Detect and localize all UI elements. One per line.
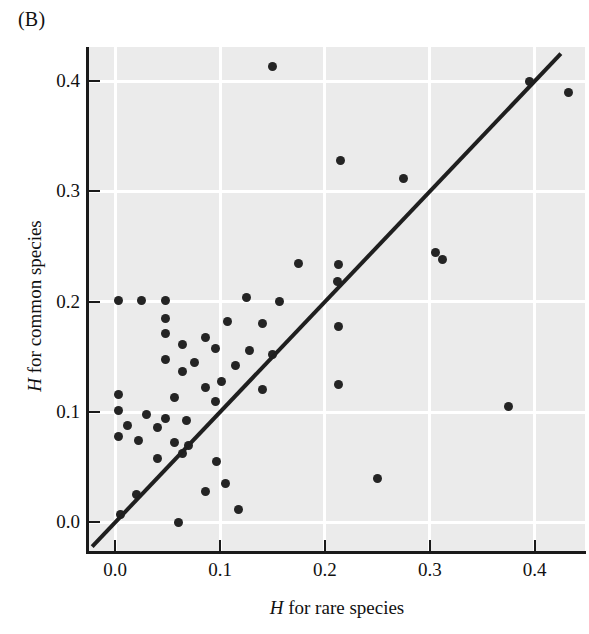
scatter-point [525, 77, 534, 86]
x-axis-title: H for rare species [89, 597, 585, 619]
scatter-point [161, 355, 170, 364]
scatter-figure: (B) 0.00.10.20.30.4 0.00.10.20.30.4 H fo… [0, 0, 589, 634]
scatter-point [438, 255, 447, 264]
x-axis-title-symbol: H [270, 597, 284, 618]
scatter-point [153, 423, 162, 432]
scatter-point [137, 296, 146, 305]
scatter-point [161, 296, 170, 305]
x-tick-label-0: 0.0 [75, 560, 155, 579]
scatter-point [334, 322, 343, 331]
scatter-point [242, 293, 251, 302]
scatter-point [268, 350, 277, 359]
scatter-point [114, 432, 123, 441]
scatter-point [132, 490, 141, 499]
scatter-point [431, 248, 440, 257]
scatter-point [190, 358, 199, 367]
y-axis-title-symbol: H [24, 378, 45, 392]
scatter-point [114, 390, 123, 399]
x-tick-label-4: 0.4 [495, 560, 575, 579]
y-tick-0 [89, 521, 100, 523]
scatter-point [268, 62, 277, 71]
y-axis-spine [86, 47, 89, 552]
scatter-point [123, 421, 132, 430]
scatter-point [170, 438, 179, 447]
scatter-point [142, 410, 151, 419]
scatter-point [211, 344, 220, 353]
scatter-point [161, 329, 170, 338]
scatter-points-layer [89, 47, 585, 551]
scatter-point [134, 436, 143, 445]
x-tick-1 [219, 540, 221, 552]
scatter-point [234, 505, 243, 514]
x-axis-title-text: for rare species [283, 597, 404, 618]
scatter-point [334, 260, 343, 269]
scatter-point [212, 457, 221, 466]
x-axis-spine [86, 551, 586, 554]
x-tick-label-3: 0.3 [390, 560, 470, 579]
scatter-point [116, 510, 125, 519]
scatter-point [333, 277, 342, 286]
y-tick-4 [89, 80, 100, 82]
y-tick-1 [89, 411, 100, 413]
x-tick-label-2: 0.2 [285, 560, 365, 579]
scatter-point [258, 319, 267, 328]
scatter-point [161, 314, 170, 323]
x-tick-4 [534, 540, 536, 552]
y-axis-title: H for common species [24, 96, 46, 516]
scatter-point [178, 367, 187, 376]
scatter-point [258, 385, 267, 394]
x-tick-2 [324, 540, 326, 552]
scatter-point [178, 449, 187, 458]
scatter-point [334, 380, 343, 389]
scatter-point [201, 487, 210, 496]
y-tick-3 [89, 190, 100, 192]
scatter-point [114, 296, 123, 305]
scatter-point [174, 518, 183, 527]
x-tick-3 [429, 540, 431, 552]
x-tick-0 [114, 540, 116, 552]
scatter-point [211, 397, 220, 406]
scatter-point [223, 317, 232, 326]
scatter-point [217, 377, 226, 386]
scatter-point [184, 441, 193, 450]
scatter-point [114, 406, 123, 415]
scatter-point [504, 402, 513, 411]
scatter-point [564, 88, 573, 97]
scatter-point [170, 393, 179, 402]
y-tick-2 [89, 301, 100, 303]
scatter-point [275, 297, 284, 306]
scatter-point [294, 259, 303, 268]
scatter-point [178, 340, 187, 349]
scatter-point [399, 174, 408, 183]
scatter-point [373, 474, 382, 483]
y-tick-label-4: 0.4 [10, 71, 80, 90]
scatter-point [245, 346, 254, 355]
scatter-point [161, 414, 170, 423]
scatter-point [336, 156, 345, 165]
scatter-point [231, 361, 240, 370]
scatter-point [221, 479, 230, 488]
scatter-point [153, 454, 162, 463]
plot-area [89, 47, 585, 551]
x-tick-label-1: 0.1 [180, 560, 260, 579]
scatter-point [201, 383, 210, 392]
y-axis-title-text: for common species [24, 220, 45, 378]
scatter-point [182, 416, 191, 425]
scatter-point [201, 333, 210, 342]
